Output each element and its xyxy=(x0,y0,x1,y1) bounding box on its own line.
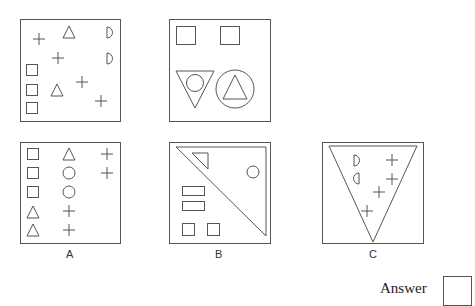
square-icon xyxy=(177,27,196,45)
option-a[interactable] xyxy=(21,143,121,244)
triangle-icon xyxy=(27,224,39,236)
plus-icon xyxy=(386,173,398,185)
circle-icon xyxy=(187,75,204,92)
half-circle-icon xyxy=(354,155,360,166)
question-panel-1 xyxy=(21,20,121,122)
option-b-label: B xyxy=(215,248,222,260)
triangle-icon xyxy=(51,84,63,96)
plus-icon xyxy=(63,224,75,236)
half-circle-icon xyxy=(107,53,113,64)
square-icon xyxy=(27,103,38,114)
plus-icon xyxy=(361,205,373,217)
plus-icon xyxy=(52,52,64,64)
square-icon xyxy=(28,149,39,160)
option-a-label: A xyxy=(66,248,73,260)
triangle-icon xyxy=(63,148,75,160)
square-icon xyxy=(208,224,220,236)
triangle-icon xyxy=(63,26,75,38)
question-panel-2 xyxy=(170,20,271,122)
square-icon xyxy=(27,65,38,76)
small-triangle-icon xyxy=(192,153,208,169)
plus-icon xyxy=(101,148,113,160)
answer-input[interactable] xyxy=(443,276,472,306)
square-icon xyxy=(28,168,39,179)
square-icon xyxy=(28,187,39,198)
circle-icon xyxy=(63,186,75,198)
rectangle-icon xyxy=(183,187,205,196)
answer-label: Answer xyxy=(380,280,427,297)
plus-icon xyxy=(33,33,45,45)
option-frame[interactable] xyxy=(323,143,424,244)
plus-icon xyxy=(63,205,75,217)
circle-icon xyxy=(63,167,75,179)
triangle-icon xyxy=(223,75,247,99)
square-icon xyxy=(221,27,240,45)
rectangle-icon xyxy=(183,202,205,211)
plus-icon xyxy=(373,186,385,198)
diagonal-triangle-icon xyxy=(176,147,266,236)
plus-icon xyxy=(386,154,398,166)
triangle-icon xyxy=(27,206,39,218)
inverted-triangle-icon xyxy=(176,71,214,108)
plus-icon xyxy=(76,76,88,88)
circle-icon xyxy=(247,166,259,178)
option-c-label: C xyxy=(369,248,377,260)
panel-frame xyxy=(21,20,121,122)
option-b[interactable] xyxy=(170,143,271,244)
square-icon xyxy=(183,224,195,236)
square-icon xyxy=(27,85,38,96)
option-c[interactable] xyxy=(323,143,424,244)
half-circle-icon xyxy=(107,27,113,38)
half-circle-icon xyxy=(354,173,360,184)
plus-icon xyxy=(95,95,107,107)
inverted-triangle-icon xyxy=(329,146,417,242)
plus-icon xyxy=(101,167,113,179)
